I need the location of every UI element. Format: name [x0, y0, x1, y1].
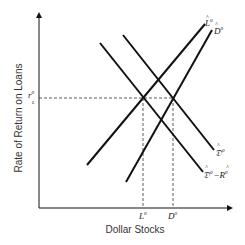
supply-demand-diagram: ^ L0 ^ D0 ^ 𝔇0 ^ ^ 𝔇0−R0 r0 L L0 D0 Doll…: [0, 0, 245, 245]
x-tick-D0: D0: [167, 211, 178, 221]
svg-text:𝔇0−R0: 𝔇0−R0: [203, 170, 228, 180]
x-axis-title: Dollar Stocks: [106, 224, 165, 235]
y-axis-title: Rate of Return on Loans: [13, 64, 24, 173]
svg-text:L0: L0: [204, 18, 213, 28]
curve-L-hat-0: [87, 24, 205, 165]
label-Dfrak-hat-0: ^ 𝔇0: [215, 142, 225, 158]
label-L-hat-0: ^ L0: [204, 14, 213, 28]
curve-D-hat-0: [126, 30, 212, 182]
label-D-hat-0: ^ D0: [213, 21, 224, 36]
curve-Dfrak-minus-R: [100, 43, 203, 172]
y-tick-r-L-0: r0 L: [28, 90, 35, 105]
svg-text:r0: r0: [28, 90, 35, 100]
svg-text:D0: D0: [213, 26, 224, 36]
svg-text:L: L: [31, 100, 35, 105]
label-Dfrak-minus-R: ^ ^ 𝔇0−R0: [203, 164, 229, 180]
x-tick-L0: L0: [138, 211, 147, 221]
svg-text:𝔇0: 𝔇0: [215, 148, 225, 158]
